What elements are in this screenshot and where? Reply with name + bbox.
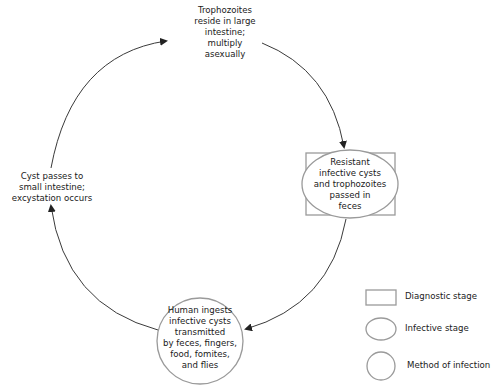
label-line: small intestine; (2, 182, 102, 193)
stage-label-human-ingests: Human ingests infective cysts transmitte… (155, 305, 245, 371)
label-line: intestine; (185, 27, 265, 38)
label-line: reside in large (185, 16, 265, 27)
label-line: infective cysts (155, 316, 245, 327)
label-line: excystation occurs (2, 193, 102, 204)
stage-label-excystation: Cyst passes to small intestine; excystat… (2, 171, 102, 204)
label-line: food, fomites, (155, 349, 245, 360)
label-line: Cyst passes to (2, 171, 102, 182)
label-line: by feces, fingers, (155, 338, 245, 349)
cycle-arrow-1 (262, 43, 344, 147)
label-line: and flies (155, 360, 245, 371)
label-line: and trophozoites (305, 179, 395, 190)
cycle-arrow-3 (51, 206, 158, 330)
label-line: multiply (185, 38, 265, 49)
stage-label-trophozoites: Trophozoites reside in large intestine; … (185, 5, 265, 60)
label-line: passed in (305, 190, 395, 201)
label-line: Trophozoites (185, 5, 265, 16)
label-line: Human ingests (155, 305, 245, 316)
legend-circle-icon (367, 352, 395, 380)
legend-label-method: Method of infection (407, 360, 490, 370)
label-line: transmitted (155, 327, 245, 338)
legend-label-diagnostic: Diagnostic stage (405, 291, 477, 301)
label-line: asexually (185, 49, 265, 60)
legend-ellipse-icon (366, 318, 396, 340)
stage-label-diagnostic-infective: Resistant infective cysts and trophozoit… (305, 157, 395, 212)
label-line: Resistant (305, 157, 395, 168)
label-line: feces (305, 201, 395, 212)
legend-rectangle-icon (366, 290, 396, 305)
cycle-arrow-2 (246, 219, 346, 329)
legend-label-infective: Infective stage (405, 323, 469, 333)
label-line: infective cysts (305, 168, 395, 179)
cycle-arrow-4 (51, 41, 166, 168)
